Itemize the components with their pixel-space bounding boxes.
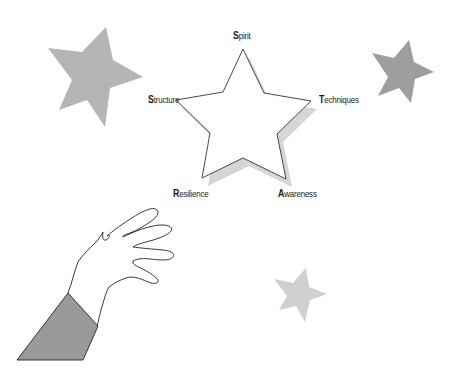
label-rest: esilience bbox=[179, 189, 208, 199]
label-spirit: Spirit bbox=[233, 31, 251, 41]
label-structure: Structure bbox=[148, 95, 179, 105]
hand-outline bbox=[68, 209, 174, 326]
decorative-star-icon bbox=[274, 268, 327, 322]
label-rest: echniques bbox=[324, 95, 359, 105]
label-rest: wareness bbox=[284, 189, 316, 199]
label-techniques: Techniques bbox=[319, 95, 359, 105]
diagram-canvas bbox=[0, 0, 453, 375]
label-rest: tructure bbox=[154, 95, 179, 105]
decorative-star-icon bbox=[372, 40, 434, 103]
label-resilience: Resilience bbox=[173, 189, 208, 199]
decorative-star-icon bbox=[48, 27, 143, 127]
label-rest: pirit bbox=[239, 31, 251, 41]
reaching-hand-illustration bbox=[17, 209, 174, 360]
label-awareness: Awareness bbox=[278, 189, 317, 199]
